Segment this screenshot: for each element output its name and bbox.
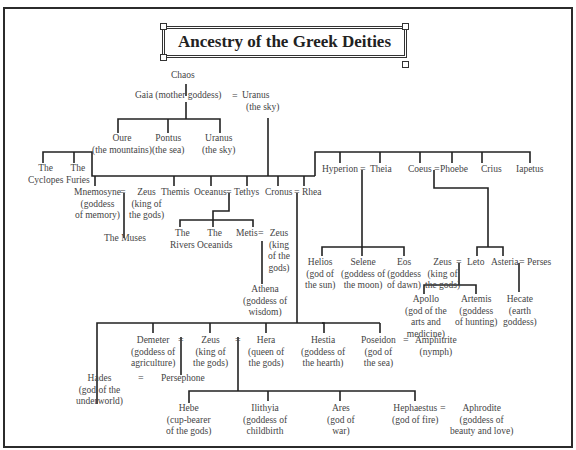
node-oure: Oure(the mountains) (92, 133, 152, 156)
node-ares: Ares(god ofwar) (327, 403, 355, 438)
marriage-symbol: = (456, 256, 462, 267)
node-zeus-metis: Zeus(kingof thegods) (268, 228, 290, 274)
marriage-symbol: = (138, 372, 144, 383)
marriage-symbol: = (294, 186, 300, 197)
marriage-symbol: = (226, 186, 232, 197)
node-ilithyia: Ilithyia(goddess ofchildbirth (243, 403, 287, 438)
marriage-symbol: = (235, 334, 241, 345)
marriage-symbol: = (519, 256, 525, 267)
node-hades: Hades(god of theunderworld) (76, 373, 123, 408)
marriage-symbol: = (178, 334, 184, 345)
node-pontus: Pontus(the sea) (152, 133, 184, 156)
node-artemis: Artemis(goddessof hunting) (455, 294, 497, 329)
node-tethys: Tethys (234, 187, 259, 199)
node-amphitrite: Amphitrite(nymph) (415, 335, 457, 358)
node-apollo: Apollo(god of thearts andmedicine) (405, 294, 447, 340)
node-oceanus: Oceanus (194, 187, 227, 199)
node-uranus-child: Uranus(the sky) (202, 133, 236, 156)
marriage-symbol: = (440, 402, 446, 413)
node-theia: Theia (370, 164, 392, 176)
node-mnemosyne: Mnemosyne(goddessof memory) (74, 187, 121, 222)
node-zeus-hera: Zeus(king ofthe gods) (193, 335, 228, 370)
node-perses: Perses (527, 257, 551, 269)
node-helios: Helios(god ofthe sun) (305, 257, 335, 292)
node-zeus-leto: Zeus(king ofthe gods) (425, 257, 460, 292)
node-iapetus: Iapetus (516, 164, 543, 176)
node-muses: The Muses (104, 233, 146, 245)
marriage-symbol: = (403, 334, 409, 345)
node-hestia: Hestia(goddess ofthe hearth) (301, 335, 345, 370)
node-hecate: Hecate(earthgoddess) (503, 294, 537, 329)
node-asteria: Asteria (491, 257, 518, 269)
node-demeter: Demeter(goddess ofagriculture) (131, 335, 175, 370)
node-crius: Crius (481, 164, 502, 176)
node-cronus: Cronus (265, 187, 292, 199)
node-selene: Selene(goddess ofthe moon) (341, 257, 385, 292)
node-chaos: Chaos (171, 70, 195, 82)
node-aphrodite: Aphrodite(goddess ofbeauty and love) (450, 403, 513, 438)
node-rhea: Rhea (302, 187, 322, 199)
node-rivers: TheRivers (170, 228, 195, 251)
node-hephaestus: Hephaestus(god of fire) (392, 403, 438, 426)
node-oceanids: TheOceanids (197, 228, 232, 251)
node-metis: Metis (236, 228, 258, 240)
marriage-symbol: = (360, 163, 366, 174)
node-coeus: Coeus (408, 164, 432, 176)
node-themis: Themis (161, 187, 190, 199)
node-hebe: Hebe(cup-bearerof the gods) (166, 403, 211, 438)
marriage-symbol: = (258, 227, 264, 238)
node-persephone: Persephone (161, 373, 205, 385)
node-poseidon: Poseidon(god ofthe sea) (361, 335, 396, 370)
node-eos: Eos(goddessof dawn) (387, 257, 421, 292)
node-hyperion: Hyperion (322, 164, 358, 176)
node-athena: Athena(goddess ofwisdom) (243, 284, 287, 319)
marriage-symbol: = (232, 90, 238, 101)
node-cyclopes: TheCyclopes (28, 163, 63, 186)
node-zeus: Zeus(king ofthe gods) (129, 187, 164, 222)
node-furies: TheFuries (66, 163, 90, 186)
node-leto: Leto (467, 257, 484, 269)
marriage-symbol: = (120, 186, 126, 197)
node-gaia: Gaia (mother goddess) (135, 90, 222, 102)
node-phoebe: Phoebe (440, 164, 468, 176)
marriage-symbol: = (434, 163, 440, 174)
node-hera: Hera(queen ofthe gods) (248, 335, 284, 370)
node-uranus: Uranus(the sky) (242, 90, 280, 113)
